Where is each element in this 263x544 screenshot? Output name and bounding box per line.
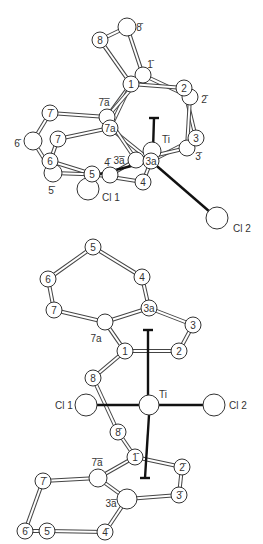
atom-label-6b: 6̄: [14, 138, 22, 149]
atom-label-7a: 7a: [104, 123, 116, 134]
bottom-bonds: [25, 247, 193, 532]
atom-label-2: 2: [176, 346, 182, 357]
atom-label-8: 8: [97, 35, 103, 46]
atom-label-3: 3: [193, 133, 199, 144]
atom-label-cl2: Cl 2: [233, 223, 251, 234]
atom-label-3: 3: [190, 320, 196, 331]
atom-label-2b: 2̄: [201, 94, 209, 105]
atom-label-ti: Ti: [159, 389, 167, 400]
atom-label-7: 7: [51, 305, 57, 316]
atom-label-7a: 7a: [90, 333, 102, 344]
atom-label-4b: 4̄: [104, 157, 112, 168]
atom-label-3b: 3̄: [195, 151, 203, 162]
atom-label-1: 1: [122, 346, 128, 357]
atom-label-8: 8: [90, 373, 96, 384]
atom-label-3a: 3a: [143, 303, 155, 314]
atom-label-7: 7: [55, 134, 61, 145]
atom-label-3ab: 3a̅: [113, 155, 125, 166]
atom-label-7ab: 7a̅: [98, 97, 110, 108]
atom-6b: [24, 132, 42, 150]
atom-cl2: [206, 207, 228, 229]
atom-label-5: 5: [90, 242, 96, 253]
atom-7a: [97, 314, 113, 330]
atom-label-3a: 3a: [145, 156, 157, 167]
atom-4b: [102, 167, 118, 183]
atom-cl2: [203, 394, 225, 416]
atom-label-7ab: 7a̅: [91, 457, 103, 468]
molecule-diagram: 88̄1̄12̄27a̅7̄6̄77a3a̅3̄3Ti3a5̄64̄Cl 154…: [0, 0, 263, 544]
atom-cl1: [75, 394, 97, 416]
atom-label-1b: 1̄: [147, 59, 155, 70]
atom-label-3ab: 3a̅: [105, 498, 117, 509]
atom-ti: [139, 395, 159, 415]
atom-label-6: 6: [47, 156, 53, 167]
atom-label-cl1: Cl 1: [55, 400, 73, 411]
atom-label-5b: 5̄: [48, 185, 56, 196]
atom-label-1: 1: [128, 79, 134, 90]
atom-label-4: 4: [139, 272, 145, 283]
atom-3ab: [117, 489, 137, 509]
atom-7ab: [89, 469, 107, 487]
atom-label-8b: 8̄: [136, 22, 144, 33]
atom-8b: [118, 18, 136, 36]
atom-label-5: 5: [89, 169, 95, 180]
atom-label-6: 6: [45, 274, 51, 285]
atom-label-cl1: Cl 1: [102, 192, 120, 203]
atom-label-cl2: Cl 2: [229, 400, 247, 411]
atoms-layer: 88̄1̄12̄27a̅7̄6̄77a3a̅3̄3Ti3a5̄64̄Cl 154…: [14, 18, 251, 540]
bottom-view-atoms: 54673a37a128TiCl 1Cl 28̄1̄2̄7a̅7̄3a̅3̄6̄…: [17, 239, 247, 540]
atom-label-4: 4: [140, 177, 146, 188]
atom-label-2: 2: [181, 83, 187, 94]
atom-label-ti: Ti: [162, 134, 170, 145]
atom-3ab: [128, 152, 144, 168]
